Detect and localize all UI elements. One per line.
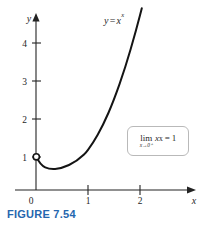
x-tick-label-2: 2 [138, 196, 143, 206]
curve-function-label: y=xx [104, 14, 124, 26]
y-tick-label-4: 4 [22, 39, 27, 49]
limit-operator-stack: lim x→0⁺ [140, 134, 153, 149]
y-tick-label-1: 1 [22, 153, 27, 163]
limit-subscript: x→0⁺ [140, 143, 153, 148]
open-circle-marker [33, 154, 39, 160]
x-tick-label-1: 1 [86, 196, 91, 206]
origin-label: 0 [29, 196, 34, 206]
plot-area: 1 2 3 4 1 2 0 y x [0, 0, 214, 210]
limit-expression: lim x→0⁺ xx=1 [140, 134, 176, 149]
x-axis-label: x [191, 195, 197, 206]
y-axis-arrowhead [32, 13, 39, 22]
y-tick-label-3: 3 [22, 77, 27, 87]
y-axis [32, 13, 39, 190]
x-axis-arrowhead [187, 186, 196, 193]
limit-callout-box: lim x→0⁺ xx=1 [127, 126, 189, 156]
function-plot-svg: 1 2 3 4 1 2 0 y x [0, 0, 214, 210]
curve-label-exponent: x [121, 11, 124, 18]
y-axis-label: y [26, 13, 32, 24]
y-tick-label-2: 2 [22, 115, 27, 125]
limit-value: 1 [172, 134, 177, 143]
x-axis [15, 186, 196, 193]
figure-container: 1 2 3 4 1 2 0 y x y=xx lim x→0⁺ xx= [0, 0, 214, 228]
figure-caption: FIGURE 7.54 [7, 208, 76, 220]
limit-equals: = [163, 134, 172, 143]
curve-label-y: y [104, 15, 109, 26]
